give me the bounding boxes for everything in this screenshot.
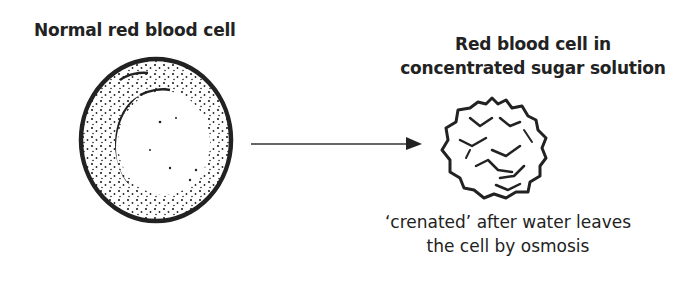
- caption-line2: the cell by osmosis: [330, 234, 686, 258]
- normal-red-blood-cell-icon: [81, 59, 231, 221]
- crenated-caption: ‘crenated’ after water leaves the cell b…: [330, 210, 686, 258]
- caption-line1: ‘crenated’ after water leaves: [330, 210, 686, 234]
- arrow-right-icon: [251, 137, 422, 150]
- crenated-red-blood-cell-icon: [442, 98, 546, 198]
